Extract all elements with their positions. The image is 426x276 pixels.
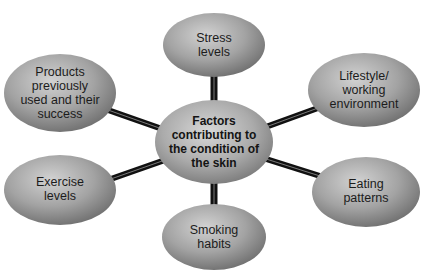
connector-lifestyle	[263, 108, 318, 128]
connector-products	[108, 110, 165, 130]
node-lifestyle	[308, 53, 420, 127]
node-stress	[163, 13, 265, 77]
node-exercise	[4, 155, 116, 225]
node-products	[4, 54, 116, 132]
connector-eating	[263, 158, 320, 176]
node-center	[155, 100, 273, 184]
connector-exercise	[108, 160, 165, 180]
node-smoking	[162, 204, 266, 270]
node-eating	[312, 157, 420, 227]
mind-map-diagram	[0, 0, 426, 276]
